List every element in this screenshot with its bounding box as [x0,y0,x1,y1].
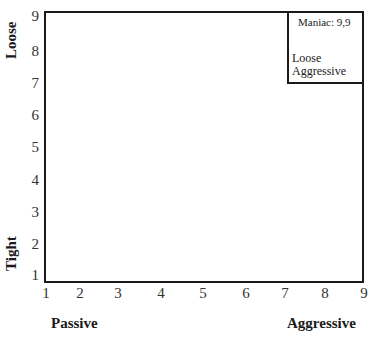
y-axis-low-label: Tight [3,236,20,271]
y-tick-5: 5 [25,140,39,155]
maniac-point-label: Maniac: 9,9 [298,16,351,28]
x-tick-3: 3 [108,286,128,301]
y-tick-6: 6 [25,108,39,123]
x-tick-5: 5 [193,286,213,301]
y-tick-1: 1 [25,268,39,283]
y-tick-7: 7 [25,76,39,91]
y-tick-2: 2 [25,237,39,252]
x-tick-1: 1 [36,286,56,301]
y-tick-8: 8 [25,44,39,59]
quadrant-label-line2: Aggressive [292,65,346,78]
x-tick-2: 2 [70,286,90,301]
loose-aggressive-label: Loose Aggressive [292,52,346,78]
x-tick-9: 9 [354,286,371,301]
y-tick-3: 3 [25,205,39,220]
x-axis-high-label: Aggressive [287,315,356,332]
y-tick-4: 4 [25,173,39,188]
x-tick-6: 6 [236,286,256,301]
x-tick-8: 8 [315,286,335,301]
x-tick-4: 4 [151,286,171,301]
y-tick-9: 9 [25,9,39,24]
x-axis-low-label: Passive [51,315,98,332]
y-axis-high-label: Loose [3,22,20,60]
x-tick-7: 7 [275,286,295,301]
